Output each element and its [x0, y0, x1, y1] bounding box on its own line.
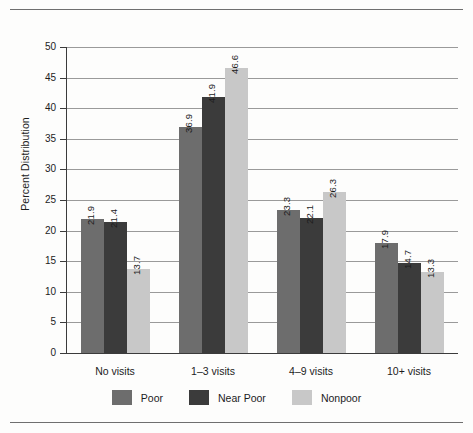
chart-legend: PoorNear PoorNonpoor: [0, 390, 473, 405]
y-axis-tick-label: 35: [26, 133, 56, 144]
bar: [300, 218, 323, 353]
legend-label: Nonpoor: [321, 392, 361, 404]
gridline: [66, 78, 458, 79]
y-axis-tick-label: 30: [26, 163, 56, 174]
legend-swatch-icon: [292, 390, 312, 405]
bar-value-label: 46.6: [229, 55, 240, 74]
bar: [127, 269, 150, 353]
x-axis-category-label: No visits: [66, 365, 164, 377]
legend-item[interactable]: Near Poor: [189, 390, 266, 405]
bar: [225, 68, 248, 353]
y-axis-tick-label: 50: [26, 41, 56, 52]
bar-value-label: 14.7: [402, 250, 413, 269]
x-axis-line: [66, 353, 458, 354]
bar-value-label: 13.7: [131, 256, 142, 275]
gridline: [66, 47, 458, 48]
legend-item[interactable]: Poor: [112, 390, 163, 405]
bar-chart-figure: Percent Distribution 0510152025303540455…: [0, 0, 473, 433]
y-axis-tick-label: 5: [26, 316, 56, 327]
gridline: [66, 108, 458, 109]
bar: [277, 210, 300, 353]
bar-value-label: 41.9: [206, 83, 217, 102]
bar: [398, 263, 421, 353]
gridline: [66, 169, 458, 170]
bar-value-label: 22.1: [304, 204, 315, 223]
x-axis-category-label: 10+ visits: [360, 365, 458, 377]
x-axis-category-label: 1–3 visits: [164, 365, 262, 377]
bar: [179, 127, 202, 353]
bar: [81, 219, 104, 353]
bar: [104, 222, 127, 353]
y-axis-line: [66, 47, 67, 354]
y-axis-tick-label: 45: [26, 72, 56, 83]
bar-value-label: 23.3: [281, 197, 292, 216]
gridline: [66, 200, 458, 201]
plot-area: 05101520253035404550 21.921.413.736.941.…: [66, 47, 458, 353]
bar: [375, 243, 398, 353]
y-axis-tick-label: 0: [26, 347, 56, 358]
bar-value-label: 26.3: [327, 179, 338, 198]
bar: [202, 97, 225, 353]
top-divider-rule: [10, 9, 463, 10]
bar: [421, 272, 444, 353]
bottom-divider-rule: [10, 422, 463, 423]
bar-value-label: 21.9: [85, 206, 96, 225]
y-axis-tick-label: 25: [26, 194, 56, 205]
bar: [323, 192, 346, 353]
legend-label: Near Poor: [218, 392, 266, 404]
legend-swatch-icon: [112, 390, 132, 405]
y-axis-tick-label: 10: [26, 286, 56, 297]
bar-value-label: 13.3: [425, 258, 436, 277]
legend-item[interactable]: Nonpoor: [292, 390, 361, 405]
bar-value-label: 21.4: [108, 209, 119, 228]
bar-value-label: 17.9: [379, 230, 390, 249]
legend-swatch-icon: [189, 390, 209, 405]
y-axis-tick-label: 20: [26, 225, 56, 236]
bar-value-label: 36.9: [183, 114, 194, 133]
gridline: [66, 139, 458, 140]
legend-label: Poor: [141, 392, 163, 404]
x-axis-category-label: 4–9 visits: [262, 365, 360, 377]
y-axis-tick-label: 15: [26, 255, 56, 266]
y-axis-tick-label: 40: [26, 102, 56, 113]
